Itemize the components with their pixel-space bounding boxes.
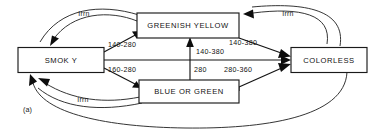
node-label-greenish-yellow: GREENISH YELLOW (147, 21, 229, 30)
node-colorless[interactable]: COLORLESS (291, 48, 367, 73)
edge-label-smoky-to-greenish-yellow: 140-280 (108, 41, 136, 49)
edge-label-greenish-yellow-to-colorless: 140-380 (229, 39, 257, 47)
node-blue-or-green[interactable]: BLUE OR GREEN (139, 80, 239, 103)
edge-label-smoky-to-colorless: 140-380 (196, 48, 224, 56)
node-label-smoky: SMOK Y (45, 56, 78, 65)
edge-label-blue-or-green-to-greenish-yellow: 280 (194, 66, 207, 74)
irr-label-colorless-to-greenish-yellow: Irrn (282, 10, 293, 17)
arrowhead-icon (278, 63, 291, 72)
arrowhead-icon (50, 36, 59, 47)
edge-curve (45, 83, 140, 100)
edge-blue-or-green-to-greenish-yellow (186, 37, 194, 80)
diagram-canvas: SMOK Y GREENISH YELLOW BLUE OR GREEN COL… (0, 0, 371, 132)
edge-curve (53, 15, 137, 40)
state-transition-diagram: SMOK Y GREENISH YELLOW BLUE OR GREEN COL… (0, 0, 371, 132)
arrowhead-icon (243, 10, 254, 19)
edge-smoky-to-colorless (104, 56, 291, 65)
figure-caption: (a) (23, 105, 32, 114)
irr-label-greenish-yellow-to-smoky: Irrn (78, 10, 89, 17)
edge-curve-outer-bottom-left (38, 88, 142, 108)
node-greenish-yellow[interactable]: GREENISH YELLOW (137, 13, 239, 38)
node-smoky[interactable]: SMOK Y (18, 48, 104, 73)
arrowhead-icon (278, 49, 291, 58)
edge-label-smoky-to-blue-or-green: 160-280 (108, 66, 136, 74)
node-label-blue-or-green: BLUE OR GREEN (154, 87, 224, 96)
edge-irr-blue-or-green-to-smoky (38, 78, 140, 100)
edge-label-blue-or-green-to-colorless: 280-360 (224, 66, 252, 74)
irr-label-blue-or-green-to-smoky: Irrn (77, 96, 88, 103)
node-label-colorless: COLORLESS (303, 56, 354, 65)
